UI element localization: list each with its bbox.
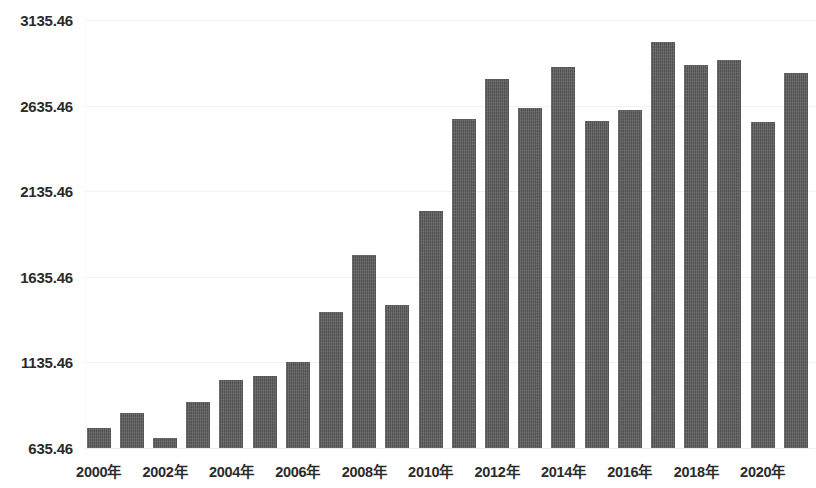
bar	[120, 413, 144, 448]
bar	[352, 255, 376, 448]
bar	[784, 73, 808, 448]
plot-area	[85, 14, 815, 454]
x-axis-tick-label: 2010年	[408, 460, 453, 481]
bar	[485, 79, 509, 448]
x-axis-tick-label: 2002年	[143, 460, 188, 481]
x-axis-tick-label: 2016年	[607, 460, 652, 481]
bar	[153, 438, 177, 448]
bar	[751, 122, 775, 448]
bar	[385, 305, 409, 448]
bar-series	[85, 14, 815, 454]
bar	[87, 428, 111, 448]
bar	[319, 312, 343, 448]
bar	[452, 119, 476, 448]
y-axis-tick-label: 2635.46	[20, 97, 73, 114]
bar-chart: 635.461135.461635.462135.462635.463135.4…	[0, 0, 816, 488]
bar	[286, 362, 310, 448]
bar	[684, 65, 708, 448]
y-axis-tick-label: 3135.46	[20, 12, 73, 29]
bar	[419, 211, 443, 448]
bar	[518, 108, 542, 448]
x-axis-tick-label: 2006年	[275, 460, 320, 481]
y-axis: 635.461135.461635.462135.462635.463135.4…	[0, 0, 80, 488]
y-axis-tick-label: 635.46	[28, 440, 73, 457]
bar	[253, 376, 277, 448]
bar	[651, 42, 675, 448]
x-axis-tick-label: 2008年	[342, 460, 387, 481]
x-axis-tick-label: 2000年	[76, 460, 121, 481]
bar	[585, 121, 609, 448]
y-axis-tick-label: 2135.46	[20, 183, 73, 200]
bar	[618, 110, 642, 448]
x-axis-tick-label: 2004年	[209, 460, 254, 481]
bar	[186, 402, 210, 448]
y-axis-tick-label: 1135.46	[21, 354, 73, 371]
x-axis-tick-label: 2014年	[541, 460, 586, 481]
bar	[219, 380, 243, 448]
bar	[551, 67, 575, 448]
x-axis: 2000年2002年2004年2006年2008年2010年2012年2014年…	[85, 460, 815, 486]
y-axis-tick-label: 1635.46	[20, 268, 73, 285]
x-axis-tick-label: 2018年	[674, 460, 719, 481]
x-axis-tick-label: 2020年	[740, 460, 785, 481]
x-axis-tick-label: 2012年	[475, 460, 520, 481]
bar	[717, 60, 741, 448]
